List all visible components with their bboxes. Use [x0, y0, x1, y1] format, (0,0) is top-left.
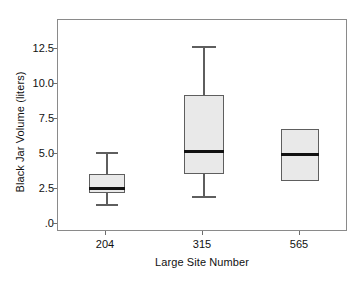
y-tick-label: 5.0 — [20, 148, 54, 159]
y-tick-label: 12.5 — [20, 43, 54, 54]
upper-whisker-line — [106, 152, 108, 174]
x-tick-label-315: 315 — [172, 238, 232, 250]
median-line — [184, 150, 224, 153]
box-group-315 — [155, 20, 252, 230]
y-tick-label: 2.5 — [20, 183, 54, 194]
plot-area — [57, 19, 347, 231]
y-tick-label: .0 — [20, 218, 54, 229]
y-tick-label: 7.5 — [20, 113, 54, 124]
upper-whisker-cap — [96, 152, 118, 154]
lower-whisker-line — [203, 174, 205, 196]
x-tick-mark — [299, 231, 300, 235]
x-tick-label-565: 565 — [269, 238, 329, 250]
y-axis-tick-labels: 12.5 10.0 7.5 5.0 2.5 .0 — [20, 0, 54, 284]
median-line — [89, 187, 125, 190]
upper-whisker-cap — [192, 46, 216, 48]
x-tick-mark — [105, 231, 106, 235]
box-plot-chart: Black Jar Volume (liters) 12.5 10.0 7.5 … — [0, 0, 358, 284]
x-tick-label-204: 204 — [75, 238, 135, 250]
median-line — [281, 153, 319, 156]
lower-whisker-cap — [96, 204, 118, 206]
x-axis-title: Large Site Number — [57, 256, 347, 268]
box-group-204 — [58, 20, 155, 230]
box-rect — [89, 174, 125, 194]
box-rect — [184, 95, 224, 173]
lower-whisker-line — [106, 193, 108, 204]
upper-whisker-line — [203, 46, 205, 96]
lower-whisker-cap — [192, 196, 216, 198]
box-group-565 — [252, 20, 348, 230]
x-tick-mark — [202, 231, 203, 235]
y-tick-label: 10.0 — [20, 78, 54, 89]
